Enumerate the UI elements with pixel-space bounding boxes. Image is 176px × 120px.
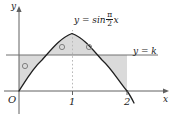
x-axis-arrow bbox=[163, 88, 169, 93]
y-axis-arrow bbox=[16, 6, 21, 12]
origin-label: O bbox=[8, 95, 16, 105]
curve-equation-numerator: π bbox=[106, 11, 113, 19]
curve-equation-label: y = sinπ2x bbox=[74, 11, 119, 27]
math-figure: y x O 1 2 y = sinπ2x y = k bbox=[0, 0, 176, 120]
curve-equation-prefix: y = sin bbox=[74, 15, 106, 25]
curve-equation-denominator: 2 bbox=[106, 19, 113, 28]
curve-equation-suffix: x bbox=[114, 15, 119, 25]
line-equation-label: y = k bbox=[133, 47, 157, 56]
x-axis-label: x bbox=[163, 95, 168, 104]
y-axis-label: y bbox=[11, 2, 16, 11]
x-tick-label-2: 2 bbox=[124, 97, 130, 107]
x-tick-label-1: 1 bbox=[69, 97, 75, 107]
curve-equation-fraction: π2 bbox=[106, 11, 113, 27]
